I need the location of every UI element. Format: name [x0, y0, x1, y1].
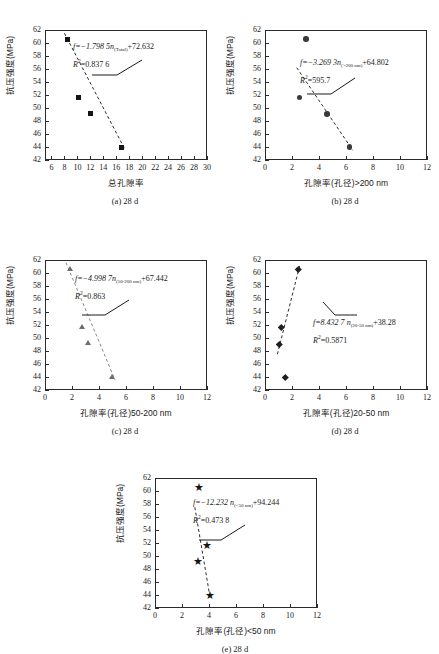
data-point: ★ — [202, 541, 210, 550]
data-point: ★ — [194, 483, 202, 492]
data-point: ★ — [193, 557, 201, 566]
equation-annotation-e: f=−12.232 n(<50 nm)+94.244R2=0.473 8 — [193, 498, 279, 526]
equation-line: f=−12.232 n(<50 nm)+94.244 — [193, 498, 279, 512]
annotation-leader-line-e — [199, 525, 245, 540]
r-squared-line: R2=0.473 8 — [193, 512, 279, 527]
data-point: ★ — [205, 591, 213, 600]
